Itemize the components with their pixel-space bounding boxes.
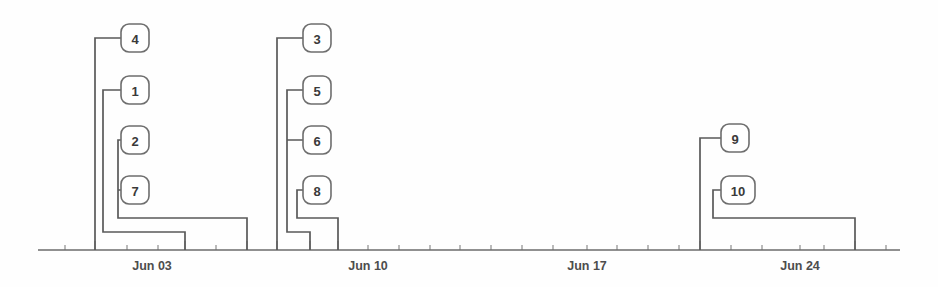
task-node-label: 5 xyxy=(313,84,320,99)
axis-tick-labels-group: Jun 03Jun 10Jun 17Jun 24 xyxy=(132,259,820,273)
task-node[interactable]: 7 xyxy=(121,176,149,204)
task-node-label: 10 xyxy=(731,184,745,199)
connector-5-6 xyxy=(287,90,331,250)
arrowheads-group xyxy=(137,31,755,197)
task-node[interactable]: 8 xyxy=(303,176,331,204)
axis-tick-label: Jun 03 xyxy=(132,259,172,273)
task-node[interactable]: 9 xyxy=(721,124,749,152)
task-node-label: 2 xyxy=(131,134,138,149)
task-node-label: 9 xyxy=(731,132,738,147)
task-node[interactable]: 6 xyxy=(303,126,331,154)
axis-tick-label: Jun 10 xyxy=(348,259,388,273)
task-node[interactable]: 2 xyxy=(121,126,149,154)
task-node-label: 6 xyxy=(313,134,320,149)
task-node[interactable]: 10 xyxy=(721,176,755,204)
task-nodes-group[interactable]: 41273568910 xyxy=(121,24,755,204)
task-node-label: 3 xyxy=(313,32,320,47)
axis-minor-ticks-group xyxy=(65,245,886,250)
gantt-dependency-diagram: 41273568910 Jun 03Jun 10Jun 17Jun 24 xyxy=(0,0,938,287)
task-node[interactable]: 3 xyxy=(303,24,331,52)
axis-tick-label: Jun 17 xyxy=(567,259,607,273)
task-node-label: 7 xyxy=(131,184,138,199)
task-node-label: 8 xyxy=(313,184,320,199)
axis-tick-label: Jun 24 xyxy=(780,259,820,273)
task-node[interactable]: 5 xyxy=(303,76,331,104)
connector-1 xyxy=(103,90,185,250)
diagram-canvas: 41273568910 Jun 03Jun 10Jun 17Jun 24 xyxy=(0,0,938,287)
task-node-label: 4 xyxy=(131,32,139,47)
task-node[interactable]: 4 xyxy=(121,24,149,52)
axis-major-ticks-group xyxy=(95,241,855,250)
task-node-label: 1 xyxy=(131,84,138,99)
task-node[interactable]: 1 xyxy=(121,76,149,104)
